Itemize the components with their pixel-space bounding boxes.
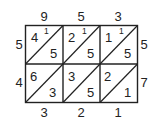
- top-digit: 9: [40, 9, 47, 24]
- top-digit: 5: [77, 9, 84, 24]
- right-digit: 5: [140, 37, 147, 52]
- cell-tens: 2: [104, 69, 111, 84]
- lattice-diagram: 9 5 3 5 4 5 7 3 2 1 4 1 5 2 1 5 1 1 5 6 …: [0, 0, 152, 124]
- cell-tens: 6: [30, 69, 37, 84]
- cell-ones: 1: [124, 85, 131, 100]
- cell-tens: 1: [105, 30, 112, 45]
- bottom-digit: 2: [77, 105, 84, 120]
- top-digit: 3: [114, 9, 121, 24]
- cell-carry: 1: [119, 26, 124, 36]
- right-digit: 7: [140, 75, 147, 90]
- cell-carry: 1: [44, 26, 49, 36]
- cell-tens: 4: [31, 30, 38, 45]
- cell-ones: 5: [87, 46, 94, 61]
- left-digit: 4: [15, 75, 22, 90]
- cell-ones: 5: [50, 46, 57, 61]
- cell-ones: 3: [49, 85, 56, 100]
- cell-tens: 3: [68, 69, 75, 84]
- cell-carry: 1: [82, 26, 87, 36]
- bottom-digit: 1: [114, 105, 121, 120]
- cell-tens: 2: [68, 30, 75, 45]
- bottom-digit: 3: [40, 105, 47, 120]
- left-digit: 5: [15, 37, 22, 52]
- cell-ones: 5: [87, 85, 94, 100]
- cell-ones: 5: [124, 46, 131, 61]
